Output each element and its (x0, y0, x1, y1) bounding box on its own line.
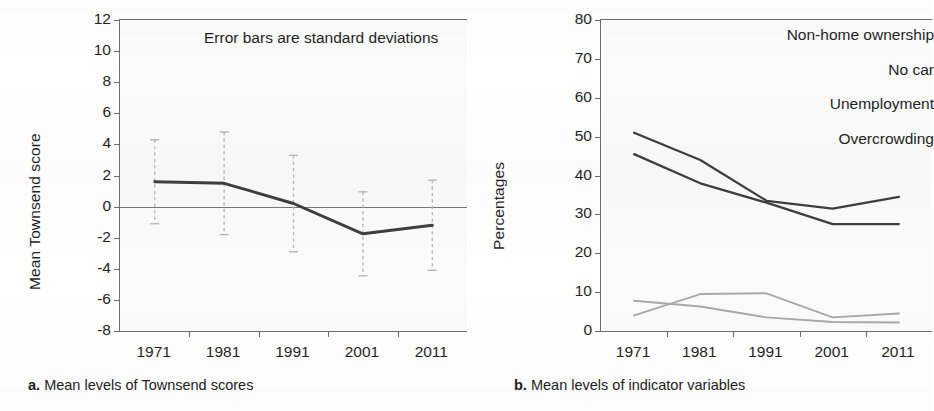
y-tick-label: 30 (575, 205, 592, 221)
panel-b-plot-area: Non-home ownershipNo carUnemploymentOver… (600, 19, 932, 332)
y-tick-mark (114, 82, 120, 83)
panel-a-caption: a. Mean levels of Townsend scores (28, 377, 253, 393)
y-tick-mark (114, 207, 120, 208)
panel-a-plot-area: Error bars are standard deviations (119, 19, 467, 332)
x-tick-label: 1971 (120, 344, 188, 360)
y-tick-mark (595, 98, 601, 99)
x-tick-mark (398, 331, 399, 337)
panel-a-caption-text: Mean levels of Townsend scores (44, 377, 253, 393)
panel-b-caption-letter: b. (514, 377, 527, 393)
y-tick-label: 10 (575, 283, 592, 299)
y-tick-mark (595, 176, 601, 177)
panel-a-series-canvas (120, 20, 467, 331)
y-tick-label: 0 (102, 198, 111, 214)
x-tick-label: 1991 (732, 344, 800, 360)
y-tick-label: 50 (575, 128, 592, 144)
y-tick-mark (595, 331, 601, 332)
y-tick-label: 2 (102, 167, 111, 183)
y-tick-label: -4 (97, 260, 111, 276)
y-tick-label: 80 (575, 11, 592, 27)
series-line-no-car (634, 154, 899, 224)
x-tick-mark (733, 331, 734, 337)
x-tick-mark (667, 331, 668, 337)
series-line-unemployment (634, 293, 899, 317)
panel-b-caption-text: Mean levels of indicator variables (531, 377, 745, 393)
y-tick-mark (595, 137, 601, 138)
y-tick-mark (114, 300, 120, 301)
x-tick-label: 1981 (189, 344, 257, 360)
panel-b-indicator-variables: Percentages 80706050403020100 Non-home o… (466, 0, 931, 411)
y-tick-mark (114, 113, 120, 114)
x-tick-label: 1971 (599, 344, 667, 360)
y-tick-label: 60 (575, 89, 592, 105)
x-tick-label: 2011 (397, 344, 465, 360)
y-tick-mark (595, 292, 601, 293)
y-tick-mark (114, 20, 120, 21)
y-tick-label: -6 (97, 291, 111, 307)
y-tick-label: 8 (102, 73, 111, 89)
y-tick-mark (595, 253, 601, 254)
x-tick-label: 1991 (259, 344, 327, 360)
x-tick-mark (259, 331, 260, 337)
y-tick-label: 12 (94, 11, 111, 27)
y-tick-label: 6 (102, 104, 111, 120)
y-tick-mark (114, 269, 120, 270)
y-tick-mark (114, 51, 120, 52)
panel-b-caption: b. Mean levels of indicator variables (514, 377, 745, 393)
x-tick-mark (189, 331, 190, 337)
x-tick-label: 2001 (798, 344, 866, 360)
panel-a-townsend-scores: Mean Townsend score 121086420-2-4-6-8 Er… (0, 0, 466, 411)
y-tick-mark (595, 20, 601, 21)
y-tick-mark (114, 176, 120, 177)
y-tick-label: 20 (575, 244, 592, 260)
y-tick-label: 0 (583, 322, 592, 338)
y-tick-mark (595, 214, 601, 215)
panel-b-series-canvas (601, 20, 932, 331)
x-tick-label: 2001 (328, 344, 396, 360)
y-tick-mark (114, 144, 120, 145)
x-tick-label: 1981 (665, 344, 733, 360)
y-tick-mark (114, 238, 120, 239)
panel-b-y-axis-label: Percentages (490, 100, 508, 250)
panel-a-y-axis-label: Mean Townsend score (26, 60, 44, 290)
y-tick-label: -8 (97, 322, 111, 338)
x-tick-mark (800, 331, 801, 337)
y-tick-mark (114, 331, 120, 332)
x-tick-label: 2011 (864, 344, 932, 360)
y-tick-label: 10 (94, 42, 111, 58)
x-tick-mark (866, 331, 867, 337)
y-tick-label: 70 (575, 50, 592, 66)
panel-a-caption-letter: a. (28, 377, 40, 393)
y-tick-mark (595, 59, 601, 60)
series-line-overcrowding (634, 301, 899, 323)
y-tick-label: -2 (97, 229, 111, 245)
x-tick-mark (328, 331, 329, 337)
y-tick-label: 40 (575, 167, 592, 183)
y-tick-label: 4 (102, 135, 111, 151)
